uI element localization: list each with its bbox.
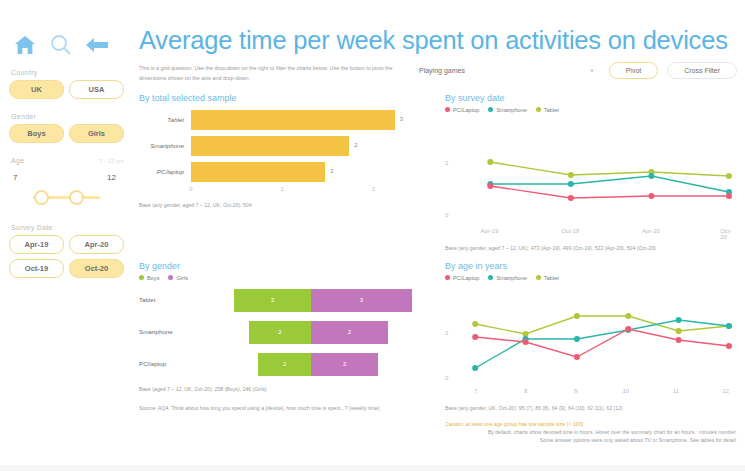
total-bar-chart: Tablet 3 Smartphone 2 [139,107,431,196]
filter-sidebar: Country UK USA Gender Boys Girls Age 7 -… [0,0,133,471]
legend-label-smartphone: Smartphone [496,107,526,113]
x-tick-age-10: 10 [622,388,629,394]
panel-gender-title: By gender [139,261,431,271]
panel-by-survey-date: By survey date PC/Laptop Smartphone Tabl… [445,93,737,253]
age-slider-knob-min[interactable] [34,190,49,205]
legend-item-pc-laptop-age[interactable]: PC/Laptop [445,275,479,281]
main-content: Average time per week spent on activitie… [133,0,745,471]
chevron-down-icon: ▾ [590,67,594,75]
legend-item-smartphone-age[interactable]: Smartphone [488,275,526,281]
bar-pc-laptop [191,162,325,182]
legend-dot-boys [139,275,144,280]
filter-date-option-oct20[interactable]: Oct-20 [69,259,124,278]
dv-row-pc-laptop[interactable]: PC/laptop 2 2 [139,348,431,380]
legend-item-tablet[interactable]: Tablet [536,107,559,113]
x-tick-0: 0 [189,186,192,192]
filter-date-option-apr19[interactable]: Apr-19 [9,235,64,254]
total-basenote: Base (any gender, aged 7 – 12, UK, Oct-2… [139,202,431,210]
survey-date-basenote: Base (any gender, aged 7 – 12, UK): 473 … [445,245,737,253]
legend-label-girls: Girls [176,275,188,281]
activity-dropdown[interactable]: Playing games ▾ [419,64,600,78]
y-tick-2-survey: 2 [445,160,448,166]
age-line-chart: 2 0 [445,284,737,388]
age-slider-knob-max[interactable] [69,190,84,205]
legend-item-pc-laptop[interactable]: PC/Laptop [445,107,479,113]
pivot-button[interactable]: Pivot [609,62,659,79]
age-range-slider[interactable] [9,184,124,210]
bar-value-smartphone: 2 [354,142,357,148]
gender-diverging-chart: Tablet 2 3 Smartphone 2 2 [139,284,431,380]
legend-item-smartphone[interactable]: Smartphone [488,107,526,113]
filter-age-min-value: 7 [13,173,17,182]
x-tick-2: 2 [372,186,375,192]
legend-item-tablet-age[interactable]: Tablet [536,275,559,281]
x-tick-oct20: Oct-20 [720,228,731,240]
bar-label-smartphone: Smartphone [139,142,191,149]
legend-label-boys: Boys [147,275,159,281]
legend-item-boys[interactable]: Boys [139,275,159,281]
footnote-answer-options: Some answer options were only asked abou… [445,436,737,444]
dv-bar-girls-tablet: 3 [311,289,412,312]
source-note: Source: AQ4. Think about how long you sp… [139,404,431,412]
filter-gender-label: Gender [9,113,124,120]
page-description: This is a grid question. Use the drop-do… [139,62,407,83]
gender-legend: Boys Girls [139,275,431,281]
bar-row-pc-laptop[interactable]: PC/laptop 2 [139,159,431,185]
legend-label-smartphone-age: Smartphone [496,275,526,281]
x-tick-apr20: Apr-20 [642,228,660,234]
dv-bar-boys-smartphone: 2 [249,321,311,344]
legend-dot-smartphone-age [488,275,493,280]
panel-by-age: By age in years PC/Laptop Smartphone Tab… [445,261,737,445]
bottom-bar [0,465,745,471]
filter-date-option-apr20[interactable]: Apr-20 [69,235,124,254]
dv-bar-boys-tablet: 2 [234,289,311,312]
page-title: Average time per week spent on activitie… [139,26,737,54]
bar-row-tablet[interactable]: Tablet 3 [139,107,431,133]
icon-toolbar [0,0,133,55]
x-tick-age-7: 7 [474,388,477,394]
panel-survey-date-title: By survey date [445,93,737,103]
panel-total-selected-sample: By total selected sample Tablet 3 Smartp… [139,93,431,253]
x-tick-age-12: 12 [723,388,730,394]
bar-value-tablet: 3 [400,116,403,122]
bar-label-tablet: Tablet [139,116,191,123]
search-icon[interactable] [50,34,71,55]
dv-label-pc-laptop: PC/laptop [139,360,191,367]
activity-dropdown-value: Playing games [419,67,465,74]
y-tick-2-age: 2 [445,330,448,336]
dv-bar-girls-smartphone: 2 [311,321,388,344]
legend-label-pc-laptop-age: PC/Laptop [453,275,479,281]
charts-grid: By total selected sample Tablet 3 Smartp… [139,93,737,445]
legend-dot-pc-laptop [445,107,450,112]
footnotes: Caution: at least one age group has low … [445,420,737,445]
back-arrow-icon[interactable] [85,37,109,53]
legend-label-tablet-age: Tablet [544,275,559,281]
survey-date-legend: PC/Laptop Smartphone Tablet [445,107,737,113]
filter-country-option-uk[interactable]: UK [9,80,64,99]
caution-note: Caution: at least one age group has low … [445,420,737,428]
filter-date-option-oct19[interactable]: Oct-19 [9,259,64,278]
cross-filter-button[interactable]: Cross Filter [667,62,737,79]
filter-age-max-value: 12 [107,173,116,182]
filter-country-label: Country [9,69,124,76]
dv-label-smartphone: Smartphone [139,328,191,335]
filter-country-option-usa[interactable]: USA [69,80,124,99]
dv-bar-boys-pc: 2 [258,353,311,376]
chart-controls: Playing games ▾ Pivot Cross Filter [419,62,737,79]
home-icon[interactable] [14,35,36,55]
filter-gender-option-girls[interactable]: Girls [69,124,124,143]
x-tick-oct19: Oct-19 [561,228,579,234]
filter-country: Country UK USA [0,69,133,99]
dv-bar-girls-pc: 2 [311,353,378,376]
panel-total-title: By total selected sample [139,93,431,103]
bar-row-smartphone[interactable]: Smartphone 2 [139,133,431,159]
legend-dot-tablet-age [536,275,541,280]
total-bar-x-axis: 0 1 2 [191,186,431,196]
dv-row-smartphone[interactable]: Smartphone 2 2 [139,316,431,348]
legend-item-girls[interactable]: Girls [168,275,188,281]
dv-label-tablet: Tablet [139,296,191,303]
filter-gender-option-boys[interactable]: Boys [9,124,64,143]
dv-row-tablet[interactable]: Tablet 2 3 [139,284,431,316]
filter-age: Age 7 - 12 yrs 7 12 [0,157,133,210]
bar-smartphone [191,136,349,156]
